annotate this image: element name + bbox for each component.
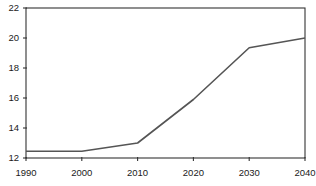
y-tick-label: 12 bbox=[8, 152, 19, 163]
y-tick-label: 16 bbox=[8, 92, 19, 103]
y-axis-tick-labels: 121416182022 bbox=[8, 2, 19, 163]
y-tick-label: 20 bbox=[8, 32, 19, 43]
x-axis-tick-labels: 199020002010202020302040 bbox=[15, 167, 315, 178]
line-chart: 121416182022 199020002010202020302040 bbox=[0, 0, 316, 186]
x-tick-label: 2010 bbox=[127, 167, 148, 178]
x-tick-label: 2040 bbox=[294, 167, 315, 178]
y-tick-label: 18 bbox=[8, 62, 19, 73]
x-tick-label: 2020 bbox=[183, 167, 204, 178]
y-tick-label: 14 bbox=[8, 122, 19, 133]
x-tick-label: 1990 bbox=[15, 167, 36, 178]
y-tick-label: 22 bbox=[8, 2, 19, 13]
plot-area-background bbox=[26, 8, 305, 158]
x-tick-label: 2000 bbox=[71, 167, 92, 178]
chart-canvas: 121416182022 199020002010202020302040 bbox=[0, 0, 316, 186]
x-tick-label: 2030 bbox=[239, 167, 260, 178]
